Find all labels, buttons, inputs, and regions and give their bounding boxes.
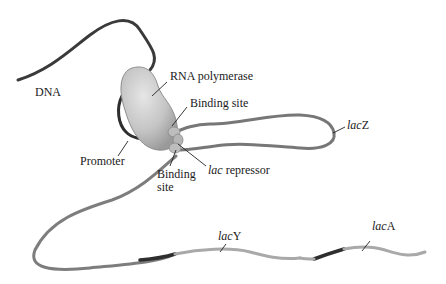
label-promoter: Promoter — [80, 155, 125, 168]
label-lac-repressor-rest: repressor — [223, 163, 270, 177]
label-lacA: lacA — [372, 220, 395, 233]
leader-lacZ — [333, 127, 345, 133]
label-lacY: lacY — [218, 230, 241, 243]
label-binding-site-top: Binding site — [190, 97, 248, 110]
rna-polymerase-shape — [121, 67, 177, 150]
label-lacZ-rest: Z — [362, 118, 369, 132]
dna-segment-connector — [300, 258, 314, 259]
label-lacA-rest: A — [387, 219, 396, 233]
dna-loop-upper — [170, 115, 334, 134]
label-lac-repressor: lac repressor — [208, 164, 270, 177]
label-lacZ-italic: lac — [347, 118, 362, 132]
lac-operon-diagram: DNA RNA polymerase Binding site Promoter… — [0, 0, 446, 284]
label-lacY-italic: lac — [218, 229, 233, 243]
gene-boundary-band-1 — [140, 254, 175, 260]
label-binding-site-bottom: Binding site — [157, 168, 196, 194]
dna-segment-lacY — [175, 249, 300, 258]
label-rna-polymerase: RNA polymerase — [170, 70, 253, 83]
dna-segment-lacA — [344, 247, 425, 255]
dna-strand-downstream — [34, 156, 176, 269]
label-dna: DNA — [35, 86, 61, 99]
dna-loop-lower — [180, 133, 334, 150]
gene-boundary-band-2 — [314, 249, 344, 259]
label-lacA-italic: lac — [372, 219, 387, 233]
label-lacY-rest: Y — [233, 229, 242, 243]
label-lacZ: lacZ — [347, 119, 369, 132]
label-lac-repressor-italic: lac — [208, 163, 223, 177]
label-binding-site-bottom-line2: site — [157, 181, 196, 194]
